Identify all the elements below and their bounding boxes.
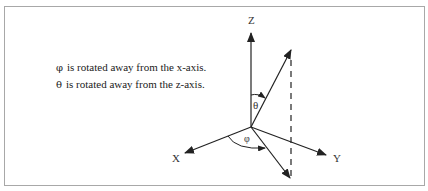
x-axis	[185, 127, 251, 153]
z-axis-label: Z	[248, 14, 255, 26]
coordinate-diagram: Z X Y θ φ	[0, 0, 428, 191]
theta-arc	[251, 94, 265, 98]
vector-arrow	[251, 50, 291, 127]
phi-label: φ	[244, 133, 250, 144]
x-axis-label: X	[172, 152, 180, 164]
y-axis-label: Y	[333, 152, 341, 164]
theta-label: θ	[253, 99, 258, 111]
